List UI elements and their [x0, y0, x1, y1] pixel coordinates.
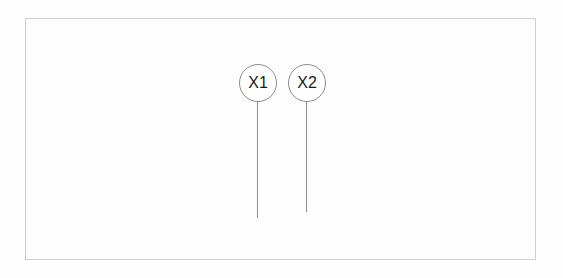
- callout-x1-label: X1: [248, 75, 268, 91]
- callout-x2-label: X2: [297, 75, 317, 91]
- callout-x2-circle[interactable]: X2: [288, 64, 326, 102]
- callout-x1-leader-line: [257, 102, 258, 218]
- callout-x1-circle[interactable]: X1: [239, 64, 277, 102]
- diagram-canvas: X1 X2: [0, 0, 563, 278]
- callout-x2-leader-line: [306, 102, 307, 212]
- drawing-border: [25, 18, 536, 260]
